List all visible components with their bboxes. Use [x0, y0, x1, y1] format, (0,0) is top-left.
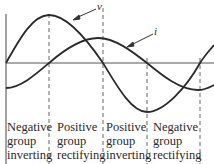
- region-label-line: group: [7, 134, 52, 148]
- i-pointer-line: [131, 34, 153, 45]
- region-positive-inverting: Positive group inverting: [106, 120, 151, 162]
- region-label-line: inverting: [7, 148, 52, 162]
- region-negative-rectifying: Negative group rectifying: [153, 120, 202, 162]
- region-positive-rectifying: Positive group rectifying: [57, 120, 106, 162]
- region-label-line: group: [106, 134, 151, 148]
- current-curve: [6, 38, 214, 90]
- region-label-line: inverting: [106, 148, 151, 162]
- current-label: i: [154, 25, 157, 37]
- v-arrowhead-icon: [73, 15, 80, 20]
- region-label-line: Positive: [57, 120, 106, 134]
- region-negative-inverting: Negative group inverting: [7, 120, 52, 162]
- region-label-line: Negative: [7, 120, 52, 134]
- region-label-line: Negative: [153, 120, 202, 134]
- region-label-line: rectifying: [57, 148, 106, 162]
- region-label-line: Positive: [106, 120, 151, 134]
- region-label-line: group: [153, 134, 202, 148]
- region-label-line: rectifying: [153, 148, 202, 162]
- i-arrowhead-icon: [127, 42, 134, 47]
- region-label-line: group: [57, 134, 106, 148]
- voltage-label: v: [97, 0, 102, 12]
